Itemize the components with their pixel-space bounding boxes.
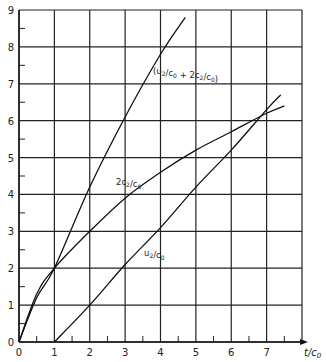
y-tick-labels: 0123456789 <box>8 5 14 348</box>
x-tick-label: 2 <box>87 347 93 358</box>
series <box>19 17 284 342</box>
x-tick-label: 5 <box>193 347 199 358</box>
y-tick-label: 4 <box>8 189 14 200</box>
x-tick-label: 0 <box>16 347 22 358</box>
x-axis-label: t/c0 <box>304 347 322 360</box>
y-tick-label: 0 <box>8 337 14 348</box>
chart: 01234567 0123456789 (u2/c0 + 2c2/c0)2c2/… <box>0 0 326 362</box>
axes <box>19 10 304 342</box>
minor-ticks <box>19 28 284 342</box>
x-tick-label: 7 <box>263 347 269 358</box>
grid <box>19 10 302 342</box>
x-tick-label: 6 <box>228 347 234 358</box>
x-axis-arrow-icon <box>300 339 308 345</box>
x-tick-labels: 01234567 <box>16 347 270 358</box>
x-tick-label: 1 <box>51 347 57 358</box>
x-tick-label: 4 <box>157 347 163 358</box>
y-tick-label: 1 <box>8 300 14 311</box>
y-tick-label: 7 <box>8 79 14 90</box>
y-tick-label: 9 <box>8 5 14 16</box>
curve-label: u2/c0 <box>144 248 165 261</box>
y-tick-label: 8 <box>8 42 14 53</box>
y-tick-label: 2 <box>8 263 14 274</box>
curve-label: 2c2/c0 <box>116 177 142 190</box>
y-tick-label: 5 <box>8 153 14 164</box>
y-tick-label: 6 <box>8 116 14 127</box>
x-tick-label: 3 <box>122 347 128 358</box>
series-line <box>19 106 284 342</box>
y-tick-label: 3 <box>8 226 14 237</box>
curve-label: (u2/c0 + 2c2/c0) <box>153 66 218 84</box>
